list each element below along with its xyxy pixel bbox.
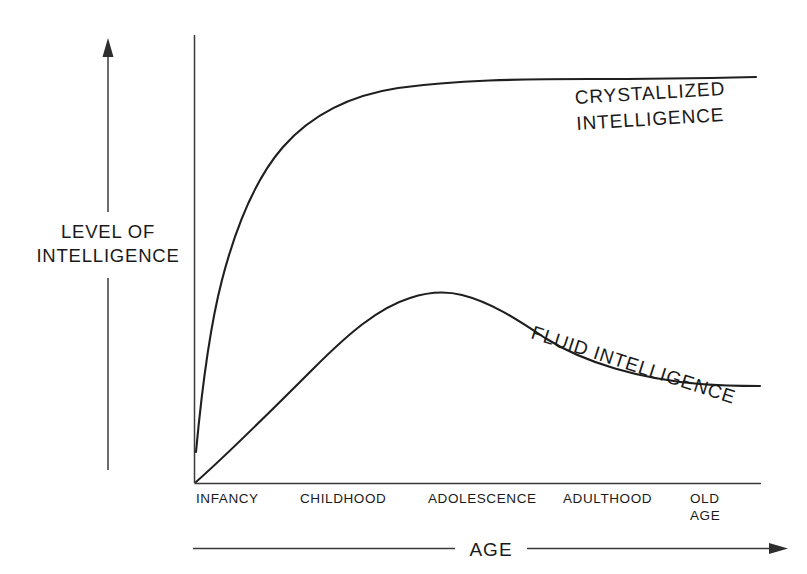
- crystallized-label-line1: CRYSTALLIZED: [574, 78, 726, 108]
- x-tick-label-old: OLD: [690, 491, 720, 506]
- y-axis-arrow-head-icon: [103, 38, 114, 57]
- fluid-label-text: FLUID INTELLIGENCE: [529, 322, 739, 408]
- y-axis-title-line2: INTELLIGENCE: [36, 245, 179, 266]
- y-axis-title-line1: LEVEL OF: [61, 221, 155, 242]
- x-tick-label-childhood: CHILDHOOD: [300, 491, 386, 506]
- crystallized-intelligence-curve: [196, 77, 756, 452]
- intelligence-lifespan-figure: LEVEL OF INTELLIGENCE CRYSTALLIZED INTEL…: [0, 0, 807, 574]
- x-axis-arrow-head-icon: [769, 543, 788, 554]
- x-tick-label-infancy: INFANCY: [196, 491, 259, 506]
- crystallized-label-line2: INTELLIGENCE: [576, 104, 725, 134]
- fluid-intelligence-label: FLUID INTELLIGENCE: [529, 322, 739, 408]
- x-tick-label-age: AGE: [690, 508, 720, 523]
- x-tick-label-adolescence: ADOLESCENCE: [428, 491, 537, 506]
- crystallized-intelligence-label: CRYSTALLIZED INTELLIGENCE: [574, 78, 727, 134]
- chart-canvas: LEVEL OF INTELLIGENCE CRYSTALLIZED INTEL…: [0, 0, 807, 574]
- x-tick-label-adulthood: ADULTHOOD: [563, 491, 652, 506]
- x-axis-title: AGE: [469, 539, 512, 560]
